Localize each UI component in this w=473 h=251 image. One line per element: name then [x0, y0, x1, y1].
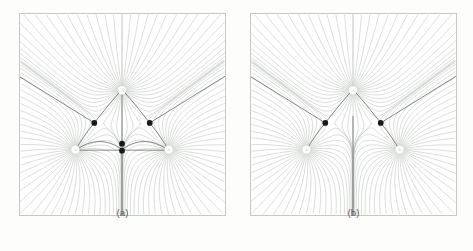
panel-b-field-diagram: Aab [251, 14, 456, 215]
panel-b-plot-area: Aab [250, 13, 457, 216]
panel-a-plot-area: Aab [19, 13, 226, 216]
panel-a-caption: (a) [19, 207, 226, 218]
figure-container: Aab (a) Aab (b) [0, 0, 473, 251]
panel-b-caption: (b) [250, 207, 457, 218]
panel-b-fieldlines [251, 14, 456, 215]
panel-b: Aab [250, 13, 457, 216]
svg-text:A: A [351, 88, 355, 93]
panel-a: Aab [19, 13, 226, 216]
panel-a-fieldlines [20, 14, 225, 215]
svg-text:A: A [120, 88, 124, 93]
panel-a-field-diagram: Aab [20, 14, 225, 215]
